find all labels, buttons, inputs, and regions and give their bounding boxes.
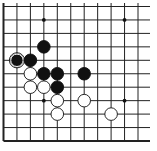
stone-body	[78, 67, 91, 80]
stone-body	[38, 81, 51, 94]
white-stone	[24, 81, 37, 94]
white-stone	[38, 81, 51, 94]
white-stone	[51, 108, 64, 121]
black-stone	[9, 53, 24, 68]
stone-body	[38, 41, 51, 54]
stones	[9, 41, 117, 121]
stone-body	[51, 94, 64, 107]
star-point	[42, 18, 46, 22]
stone-body	[24, 54, 37, 67]
stone-body	[51, 81, 64, 94]
stone-body	[38, 67, 51, 80]
white-stone	[24, 67, 37, 80]
white-stone	[51, 94, 64, 107]
stone-body	[51, 67, 64, 80]
stone-body	[51, 108, 64, 121]
white-stone	[105, 108, 118, 121]
black-stone	[51, 81, 64, 94]
stone-body	[105, 108, 118, 121]
star-point	[123, 99, 127, 103]
black-stone	[38, 41, 51, 54]
star-point	[123, 18, 127, 22]
stone-body	[78, 94, 91, 107]
black-stone	[38, 67, 51, 80]
star-point	[42, 99, 46, 103]
black-stone	[78, 67, 91, 80]
stone-body	[24, 81, 37, 94]
go-board	[0, 0, 157, 151]
black-stone	[24, 54, 37, 67]
stone-body	[24, 67, 37, 80]
white-stone	[78, 94, 91, 107]
black-stone	[51, 67, 64, 80]
